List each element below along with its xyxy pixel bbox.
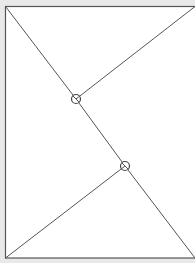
junction-lower-icon [121,162,130,171]
junction-upper-icon [72,95,81,104]
diagram-canvas [0,0,195,263]
diagram-svg [0,0,195,263]
